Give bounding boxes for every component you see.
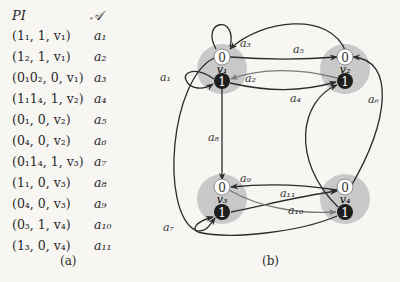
label-a8: a₈ xyxy=(208,131,220,144)
label-a3: a₃ xyxy=(240,37,251,50)
v1-label: v₁ xyxy=(217,63,228,76)
label-a1: a₁ xyxy=(160,71,171,84)
v4-label: v₄ xyxy=(340,193,351,206)
label-a4: a₄ xyxy=(290,92,301,105)
label-a7: a₇ xyxy=(163,221,175,234)
label-a6: a₆ xyxy=(368,93,380,106)
svg-text:1: 1 xyxy=(218,206,226,220)
svg-text:1: 1 xyxy=(341,206,349,220)
v3-state-1: 1 xyxy=(214,204,230,220)
state-graph: 0 1 v₁ 0 1 v₂ 0 1 v₃ 0 1 v₄ a₁ a₂ a₃ a₄ … xyxy=(0,0,400,282)
edge-a5 xyxy=(230,57,337,59)
v3-label: v₃ xyxy=(217,193,228,206)
label-a2: a₂ xyxy=(245,72,256,85)
v4-state-1: 1 xyxy=(337,204,353,220)
v2-label: v₂ xyxy=(340,63,351,76)
svg-text:1: 1 xyxy=(341,75,349,89)
label-a9: a₉ xyxy=(240,172,252,185)
svg-text:1: 1 xyxy=(218,75,226,89)
label-a11: a₁₁ xyxy=(280,187,295,200)
caption-b: (b) xyxy=(262,254,279,268)
label-a5: a₅ xyxy=(293,43,305,56)
label-a10: a₁₀ xyxy=(288,204,304,217)
